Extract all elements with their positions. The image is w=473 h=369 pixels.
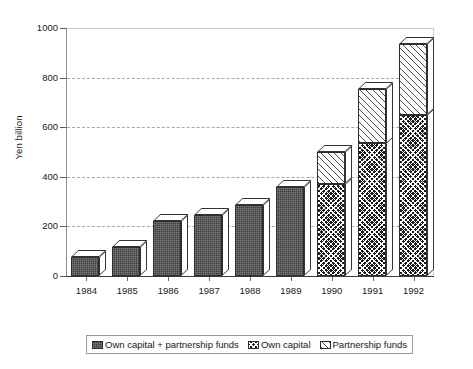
legend-label: Own capital + partnership funds	[105, 340, 239, 350]
legend-swatch-icon	[92, 341, 103, 349]
bar-group	[276, 28, 304, 276]
y-tick-label: 0	[18, 271, 58, 281]
bar-segment	[235, 205, 263, 276]
x-tick-mark	[250, 277, 251, 281]
x-tick-mark	[127, 277, 128, 281]
legend-swatch-icon	[248, 341, 259, 349]
x-tick-mark	[291, 277, 292, 281]
y-tick-label: 200	[18, 221, 58, 231]
plot-area	[66, 28, 434, 277]
bar-segment	[194, 215, 222, 276]
legend-label: Own capital	[261, 340, 311, 350]
bar-side-face	[304, 181, 311, 276]
y-tick-label: 800	[18, 73, 58, 83]
x-tick-mark	[168, 277, 169, 281]
bar-group	[194, 28, 222, 276]
legend-swatch-icon	[320, 341, 331, 349]
bar-group	[153, 28, 181, 276]
bar-segment	[71, 257, 99, 276]
bar-side-face	[386, 82, 393, 143]
plot-frame-left	[66, 28, 67, 277]
bar-segment	[317, 184, 345, 276]
bar-group	[399, 28, 427, 276]
bar-segment	[276, 187, 304, 276]
bar-side-face	[345, 178, 352, 276]
bar-group	[317, 28, 345, 276]
legend-item: Own capital + partnership funds	[92, 340, 239, 350]
bar-segment	[399, 44, 427, 115]
y-tick-label: 600	[18, 122, 58, 132]
chart-legend: Own capital + partnership fundsOwn capit…	[86, 335, 413, 354]
bar-group	[71, 28, 99, 276]
x-tick-mark	[332, 277, 333, 281]
bar-chart: Yen billion 02004006008001000 1984198519…	[0, 0, 473, 369]
bar-segment	[358, 143, 386, 276]
x-tick-mark	[414, 277, 415, 281]
bar-side-face	[222, 209, 229, 276]
bar-group	[358, 28, 386, 276]
legend-item: Partnership funds	[320, 340, 407, 350]
bar-side-face	[181, 215, 188, 276]
bar-segment	[358, 89, 386, 144]
bar-segment	[317, 152, 345, 184]
legend-item: Own capital	[248, 340, 311, 350]
bar-side-face	[345, 145, 352, 184]
bar-segment	[112, 247, 140, 276]
x-tick-mark	[86, 277, 87, 281]
x-tick-mark	[373, 277, 374, 281]
bar-side-face	[427, 38, 434, 115]
bar-segment	[399, 115, 427, 276]
bar-group	[112, 28, 140, 276]
x-tick-label: 1992	[384, 286, 444, 296]
legend-label: Partnership funds	[333, 340, 407, 350]
bar-side-face	[386, 137, 393, 276]
bar-segment	[153, 221, 181, 276]
y-tick-label: 1000	[18, 23, 58, 33]
y-tick-label: 400	[18, 172, 58, 182]
bar-side-face	[427, 108, 434, 276]
bar-group	[235, 28, 263, 276]
x-tick-mark	[209, 277, 210, 281]
bar-side-face	[263, 199, 270, 276]
